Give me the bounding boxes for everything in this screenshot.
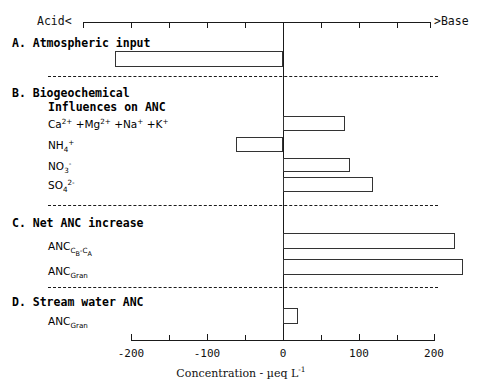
x-axis-title-exponent: -1 bbox=[298, 365, 305, 374]
bar-nitrate bbox=[283, 158, 350, 172]
label-mg-charge: 2+ bbox=[100, 117, 111, 126]
label-anc-cb-ca: ANCCB-CA bbox=[48, 240, 92, 254]
label-anc-gran-c: ANCGran bbox=[48, 265, 88, 277]
top-axis-tick bbox=[359, 22, 360, 28]
label-anc-sub-a: A bbox=[87, 250, 91, 258]
label-anc: ANC bbox=[48, 240, 70, 252]
top-axis-tick bbox=[169, 22, 170, 28]
label-anc-gran-d: ANCGran bbox=[48, 315, 88, 327]
top-axis-tick bbox=[131, 22, 132, 28]
figure-canvas: Acid< >Base A. Atmospheric input B. Biog… bbox=[0, 0, 482, 391]
label-so: SO bbox=[48, 179, 63, 191]
x-axis-tick-minor bbox=[321, 335, 322, 340]
top-axis-tick bbox=[83, 22, 84, 28]
x-axis-tick-major bbox=[131, 334, 132, 340]
section-b-heading: B. Biogeochemical bbox=[12, 86, 130, 100]
x-tick-label: 200 bbox=[404, 347, 464, 360]
label-k-charge: + bbox=[162, 117, 168, 126]
x-axis-tick-minor bbox=[169, 335, 170, 340]
bar-atmospheric-input bbox=[115, 51, 283, 67]
section-divider bbox=[48, 287, 438, 288]
bar-stream-water-anc bbox=[283, 308, 298, 324]
bar-sulfate bbox=[283, 177, 373, 192]
x-tick-label: 100 bbox=[329, 347, 389, 360]
bar-ammonium bbox=[236, 137, 283, 152]
label-base-cations: Ca2+ +Mg2+ +Na+ +K+ bbox=[48, 118, 168, 130]
acid-direction-label: Acid< bbox=[37, 14, 72, 28]
x-tick-label: -100 bbox=[177, 347, 237, 360]
label-nitrate: NO3- bbox=[48, 160, 71, 172]
section-c-heading: C. Net ANC increase bbox=[12, 216, 144, 230]
section-a-heading: A. Atmospheric input bbox=[12, 36, 150, 50]
section-divider bbox=[48, 205, 438, 206]
x-axis-tick-minor bbox=[397, 335, 398, 340]
x-tick-label: 0 bbox=[253, 347, 313, 360]
label-ca: Ca bbox=[48, 118, 62, 130]
label-na: +Na bbox=[111, 118, 137, 130]
top-axis-tick bbox=[397, 22, 398, 28]
label-anc-sub-a-wrap: A bbox=[87, 245, 91, 255]
x-axis-line bbox=[131, 340, 435, 341]
section-divider bbox=[48, 76, 438, 77]
x-axis-title-text: Concentration - µeq L bbox=[176, 367, 298, 380]
x-axis-tick-major bbox=[283, 334, 284, 340]
bar-base-cations bbox=[283, 116, 345, 131]
bar-anc-cb-ca bbox=[283, 233, 455, 249]
base-direction-label: >Base bbox=[434, 14, 469, 28]
label-anc-gran-text: ANC bbox=[48, 265, 70, 277]
x-axis-tick-major bbox=[207, 334, 208, 340]
x-axis-title: Concentration - µeq L-1 bbox=[0, 367, 482, 380]
label-anc-gran-sub: Gran bbox=[70, 271, 88, 280]
label-no-charge: - bbox=[69, 159, 72, 168]
x-axis-tick-major bbox=[434, 334, 435, 340]
section-d-heading: D. Stream water ANC bbox=[12, 295, 144, 309]
label-nh-charge: + bbox=[68, 138, 74, 147]
label-sulfate: SO42- bbox=[48, 179, 75, 191]
bar-anc-gran-net bbox=[283, 259, 463, 275]
label-ca-charge: 2+ bbox=[62, 117, 73, 126]
label-ammonium: NH4+ bbox=[48, 139, 74, 151]
label-anc-gran-d-sub: Gran bbox=[70, 321, 88, 330]
top-axis-tick bbox=[430, 22, 431, 28]
label-anc-sub: CB-CA bbox=[70, 246, 91, 255]
top-axis-tick bbox=[245, 22, 246, 28]
section-b-subheading: Influences on ANC bbox=[48, 100, 166, 114]
label-so-charge: 2- bbox=[68, 178, 75, 187]
label-k: +K bbox=[143, 118, 162, 130]
label-no: NO bbox=[48, 160, 64, 172]
label-mg: +Mg bbox=[72, 118, 100, 130]
top-axis-tick bbox=[207, 22, 208, 28]
label-anc-gran-d-text: ANC bbox=[48, 315, 70, 327]
x-axis-tick-major bbox=[359, 334, 360, 340]
x-tick-label: -200 bbox=[101, 347, 161, 360]
x-axis-tick-minor bbox=[245, 335, 246, 340]
label-nh: NH bbox=[48, 139, 64, 151]
top-axis-tick bbox=[321, 22, 322, 28]
top-axis-line bbox=[83, 22, 430, 23]
